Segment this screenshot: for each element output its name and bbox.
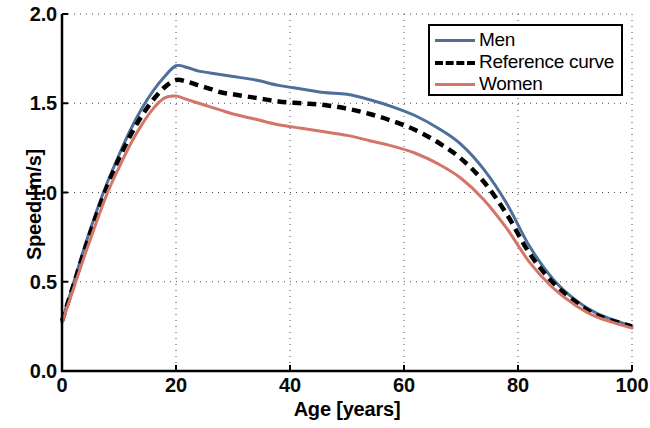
chart-figure: 0.00.51.01.52.0 020406080100 Speed [m/s]… xyxy=(0,0,650,428)
x-tick-label: 60 xyxy=(393,374,415,397)
y-tick-label: 0.5 xyxy=(30,270,57,293)
line-dashed-black-icon xyxy=(435,54,475,68)
series-line-women xyxy=(62,96,632,328)
legend-item-label: Women xyxy=(479,74,543,93)
y-tick-label: 0.0 xyxy=(30,360,57,383)
line-solid-blue-icon xyxy=(435,32,475,46)
legend-item: Women xyxy=(430,72,621,94)
series-lines xyxy=(62,65,632,328)
line-solid-red-icon xyxy=(435,76,475,90)
x-tick-label: 100 xyxy=(616,374,649,397)
y-tick-label: 1.5 xyxy=(30,92,57,115)
legend-item: Reference curve xyxy=(430,50,621,72)
x-tick-label: 20 xyxy=(165,374,187,397)
chart-legend: MenReference curveWomen xyxy=(428,24,623,96)
y-axis-title: Speed [m/s] xyxy=(23,145,46,265)
legend-item-label: Reference curve xyxy=(479,52,614,71)
x-tick-label: 40 xyxy=(279,374,301,397)
legend-item-label: Men xyxy=(479,30,515,49)
x-tick-label: 80 xyxy=(507,374,529,397)
x-axis-title: Age [years] xyxy=(294,398,401,421)
legend-item: Men xyxy=(430,28,621,50)
y-tick-label: 2.0 xyxy=(30,3,57,26)
x-tick-label: 0 xyxy=(57,374,68,397)
